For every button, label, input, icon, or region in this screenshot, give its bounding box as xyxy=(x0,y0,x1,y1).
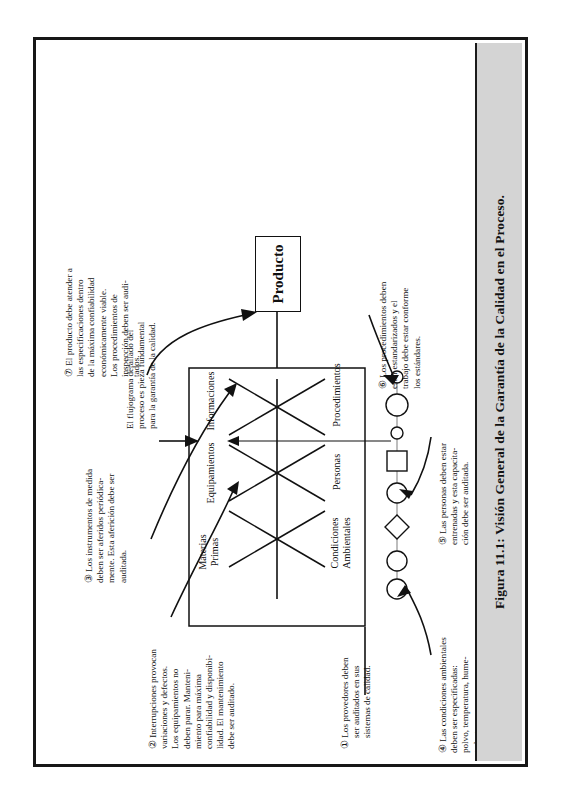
note-2-line-8: debe ser auditado. xyxy=(226,614,237,738)
note-7-line-4: económicamente viable. xyxy=(98,232,109,366)
flujograma-note-line-3: para la garantía de la calidad. xyxy=(147,289,158,429)
note-3-text-1: Los instrumentos de medida xyxy=(84,469,94,572)
note-7-marker: ⑦ xyxy=(63,368,74,377)
note-5-line-2: entrenadas y esta capacita- xyxy=(449,412,460,534)
bone-label-procedimientos: Procedimientos xyxy=(331,347,343,443)
note7-arrow xyxy=(147,309,257,375)
note-7-line-6: inspección deben ser audi- xyxy=(120,232,131,366)
note-3-marker: ③ xyxy=(83,574,94,583)
producto-box: Producto xyxy=(255,236,301,312)
fishbone-upper-bones xyxy=(229,379,277,567)
note-7: ⑦ El producto debe atender a las especif… xyxy=(63,232,142,377)
note-5: ⑤ Las personas deben estar entrenadas y … xyxy=(437,412,472,545)
note-5-line-3: ción debe ser auditada. xyxy=(460,412,471,534)
note-4-text-1: Las condiciones ambientales xyxy=(438,637,448,742)
bone-label-materias-primas: Materias Primas xyxy=(197,521,220,583)
note-7-line-2: las especificaciones dentro xyxy=(75,232,86,366)
note-2-line-1: ② Interrupciones provocan xyxy=(147,614,159,738)
figure-frame: Producto Materias Primas Equipamientos I… xyxy=(33,37,528,767)
note-2: ② Interrupciones provocan variaciones y … xyxy=(147,614,238,749)
note-4-line-2: deben ser especificadas: xyxy=(449,608,460,742)
caption-band: Figura 11.1: Visión General de la Garant… xyxy=(475,43,522,761)
note-1-line-3: sistemas de calidad. xyxy=(362,632,373,738)
note-7-line-5: Los procedimientos de xyxy=(109,232,120,366)
note-7-line-1: ⑦ El producto debe atender a xyxy=(63,232,75,366)
note-1-marker: ① xyxy=(339,740,350,749)
diagram-vector-layer xyxy=(39,43,481,767)
note-7-line-7: tados. xyxy=(131,232,142,366)
note-1: ① Los provedores deben ser auditados en … xyxy=(339,632,374,749)
note-5-marker: ⑤ xyxy=(437,536,448,545)
note-6-line-4: los estándares. xyxy=(412,246,423,378)
flownote-arrow xyxy=(159,435,199,447)
note-2-line-3: Los equipamientos no xyxy=(170,614,181,738)
note-5-line-1: ⑤ Las personas deben estar xyxy=(437,412,449,534)
note-6-line-2: estar estandarizados y el xyxy=(389,246,400,378)
note-2-line-6: confiabilidad y disponibi- xyxy=(204,614,215,738)
note-2-line-2: variaciones y defectos. xyxy=(159,614,170,738)
note-4-line-3: polvo, temperatura, hume- xyxy=(460,608,471,742)
note-3-line-3: mente. Esta aferición debe ser xyxy=(106,426,117,572)
figure-plate: Producto Materias Primas Equipamientos I… xyxy=(39,43,522,761)
note-2-marker: ② xyxy=(147,740,158,749)
bone-label-informaciones: Informaciones xyxy=(205,355,217,447)
bone-label-condiciones-ambientales: Condiciones Ambientales xyxy=(329,505,352,581)
note-6-line-3: trabajo debe estar conforme xyxy=(400,246,411,378)
note-6-line-1: ⑥ Los procedimientos deben xyxy=(377,246,389,378)
note-2-line-7: lidad. El mantenimiento xyxy=(215,614,226,738)
bone-label-line-1: Materias Primas xyxy=(197,521,220,583)
bone-label-personas: Personas xyxy=(331,441,343,503)
note4-arrow xyxy=(397,585,431,655)
note-3-line-1: ③ Los instrumentos de medida xyxy=(83,426,95,572)
note3-arrow xyxy=(151,383,237,539)
note-1-text-1: Los provedores deben xyxy=(340,657,350,737)
note-4-marker: ④ xyxy=(437,744,448,753)
note-3-line-2: deben ser aferidos periódica- xyxy=(95,426,106,572)
page-root: Producto Materias Primas Equipamientos I… xyxy=(0,0,561,802)
flow-to-box-arrow xyxy=(227,436,391,446)
note-3: ③ Los instrumentos de medida deben ser a… xyxy=(83,426,129,583)
note-5-text-1: Las personas deben estar xyxy=(438,443,448,534)
note-7-text-1: El producto debe atender a xyxy=(64,268,74,365)
note-2-line-4: deben parar. Manteni- xyxy=(182,614,193,738)
note-6-marker: ⑥ xyxy=(377,380,388,389)
note-1-line-2: ser auditados en sus xyxy=(351,632,362,738)
note-2-text-1: Interrupciones provocan xyxy=(148,649,158,738)
note-6-text-1: Los procedimientos deben xyxy=(378,282,388,378)
figure-content-area: Producto Materias Primas Equipamientos I… xyxy=(39,43,481,767)
flowchart-chain xyxy=(385,371,409,599)
rotated-canvas: Producto Materias Primas Equipamientos I… xyxy=(39,43,481,767)
note-6: ⑥ Los procedimientos deben estar estanda… xyxy=(377,246,423,389)
note-3-line-4: auditada. xyxy=(118,426,129,572)
note-7-line-3: de la máxima confiabilidad xyxy=(86,232,97,366)
fishbone-lower-bones xyxy=(277,379,325,567)
figure-caption: Figura 11.1: Visión General de la Garant… xyxy=(492,195,508,609)
note-2-line-5: miento para máxima xyxy=(193,614,204,738)
note-1-line-1: ① Los provedores deben xyxy=(339,632,351,738)
note-4-line-1: ④ Las condiciones ambientales xyxy=(437,608,449,742)
